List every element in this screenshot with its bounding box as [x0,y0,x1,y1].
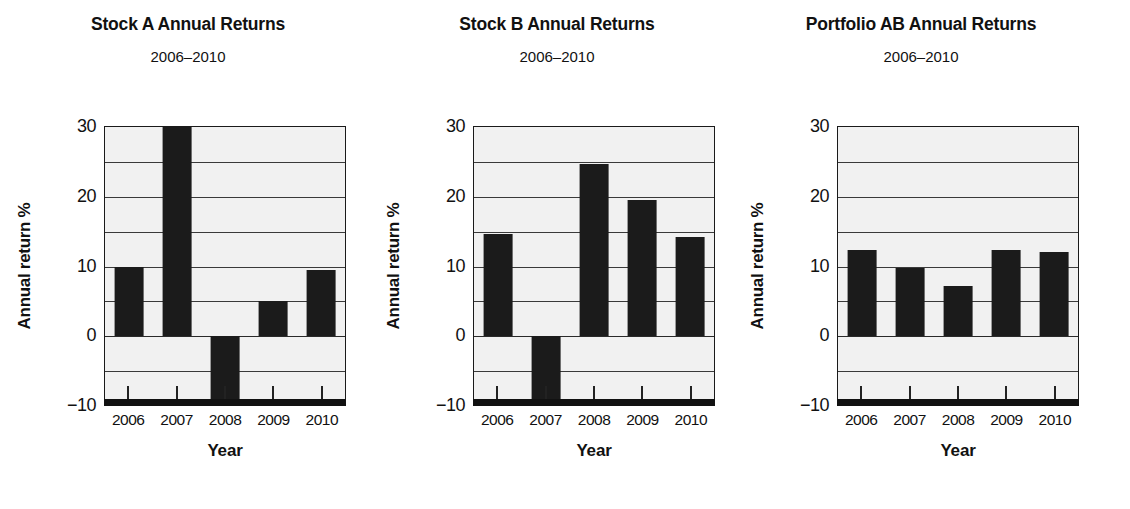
y-tick-label: 10 [773,257,829,275]
y-axis-ticks: 3020100−10 [403,126,465,405]
bar-slot [838,127,886,404]
bar-slot [666,127,714,404]
x-tick-label: 2008 [570,410,618,430]
chart-subtitle: 2006–2010 [733,47,1109,67]
bar-slot [201,127,249,404]
y-axis-ticks: 3020100−10 [767,126,829,405]
bar [580,164,609,336]
bar [307,270,336,336]
chart-title-block: Portfolio AB Annual Returns2006–2010 [733,12,1109,67]
plot-area [473,126,715,405]
chart-subtitle: 2006–2010 [369,47,745,67]
x-tick-label: 2008 [934,410,982,430]
bar-slot [934,127,982,404]
plot-frame [837,126,1079,405]
bar-slot [522,127,570,404]
bar-slot [618,127,666,404]
y-axis-ticks: 3020100−10 [34,126,96,405]
bar-slot [982,127,1030,404]
x-tick-mark [909,386,911,400]
y-tick-label: 0 [409,326,465,344]
figure-root: Stock A Annual Returns2006–2010Annual re… [0,0,1130,509]
x-axis-ticks: 20062007200820092010 [473,410,715,430]
bar-slot [297,127,345,404]
chart-title-block: Stock B Annual Returns2006–2010 [369,12,745,67]
x-tick-label: 2007 [521,410,569,430]
bar [1040,252,1069,336]
y-tick-label: 20 [409,187,465,205]
bar-series [105,127,345,404]
y-axis-label: Annual return % [14,128,36,404]
x-tick-mark [641,386,643,400]
x-tick-mark [127,386,129,400]
x-tick-mark [272,386,274,400]
y-tick-label: 30 [40,117,96,135]
y-tick-label: 20 [773,187,829,205]
bar-slot [1030,127,1078,404]
x-axis-baseline [104,399,346,406]
y-axis-label: Annual return % [383,128,405,404]
chart-panel: Stock A Annual Returns2006–2010Annual re… [0,0,376,509]
x-axis-label: Year [473,441,715,461]
chart-title: Stock B Annual Returns [369,12,745,36]
bar-series [474,127,714,404]
chart-panel: Portfolio AB Annual Returns2006–2010Annu… [733,0,1109,509]
x-tick-label: 2006 [473,410,521,430]
y-tick-label: −10 [409,396,465,414]
x-tick-mark [224,386,226,400]
bar [676,237,705,337]
x-tick-mark [176,386,178,400]
plot-area [104,126,346,405]
y-tick-label: 0 [773,326,829,344]
x-tick-mark [1005,386,1007,400]
bar [628,200,657,337]
y-tick-label: 20 [40,187,96,205]
chart-subtitle: 2006–2010 [0,47,376,67]
x-tick-label: 2009 [618,410,666,430]
x-tick-mark [957,386,959,400]
x-axis-label: Year [837,441,1079,461]
bar [992,250,1021,336]
x-axis-ticks: 20062007200820092010 [104,410,346,430]
x-tick-label: 2006 [104,410,152,430]
bar-series [838,127,1078,404]
chart-title: Portfolio AB Annual Returns [733,12,1109,36]
x-tick-mark [545,386,547,400]
bar-slot [249,127,297,404]
x-tick-label: 2009 [249,410,297,430]
x-tick-mark [690,386,692,400]
plot-area [837,126,1079,405]
bar [848,250,877,336]
bar [896,268,925,336]
x-tick-mark [1054,386,1056,400]
bar [163,127,192,336]
bar-slot [474,127,522,404]
x-tick-label: 2010 [1031,410,1079,430]
x-axis-baseline [837,399,1079,406]
bar [944,286,973,336]
y-tick-label: 10 [40,257,96,275]
x-tick-mark [496,386,498,400]
y-tick-label: 10 [409,257,465,275]
y-tick-label: 30 [773,117,829,135]
x-axis-label: Year [104,441,346,461]
chart-title-block: Stock A Annual Returns2006–2010 [0,12,376,67]
y-tick-label: −10 [773,396,829,414]
x-tick-mark [593,386,595,400]
y-axis-label: Annual return % [747,128,769,404]
bar-slot [153,127,201,404]
plot-frame [104,126,346,405]
x-tick-label: 2010 [298,410,346,430]
bar [115,267,144,337]
x-tick-label: 2007 [152,410,200,430]
bar [259,301,288,336]
bar [484,234,513,337]
x-tick-label: 2010 [667,410,715,430]
bar-slot [105,127,153,404]
y-tick-label: −10 [40,396,96,414]
y-tick-label: 0 [40,326,96,344]
chart-title: Stock A Annual Returns [0,12,376,36]
x-axis-ticks: 20062007200820092010 [837,410,1079,430]
x-tick-mark [321,386,323,400]
x-tick-label: 2009 [982,410,1030,430]
